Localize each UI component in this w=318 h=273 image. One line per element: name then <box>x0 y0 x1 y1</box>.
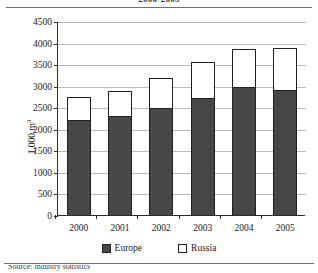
x-axis-tick <box>96 215 97 219</box>
x-axis-tick <box>179 215 180 219</box>
x-axis-tick <box>55 215 56 219</box>
x-axis-label: 2000 <box>67 223 91 233</box>
bar-segment-russia <box>191 62 215 98</box>
legend-item-europe[interactable]: Europe <box>102 243 142 253</box>
bar-segment-europe <box>273 90 297 215</box>
bar-stack <box>273 21 297 215</box>
legend-swatch-icon <box>102 244 111 253</box>
figure-caption: Source: industry statistics <box>8 265 90 271</box>
caption-clip: Source: industry statistics <box>0 265 318 273</box>
chart-legend: EuropeRussia <box>0 243 318 253</box>
plot-area: 050010001500200025003000350040004500 200… <box>57 22 305 216</box>
bar-segment-europe <box>149 108 173 215</box>
bar-stack <box>67 21 91 215</box>
y-axis-tick-label: 0 <box>47 211 52 221</box>
bar-segment-europe <box>191 98 215 215</box>
legend-label: Europe <box>115 243 142 253</box>
bar-segment-europe <box>108 116 132 215</box>
bar-stack <box>232 21 256 215</box>
chart-title: 2000-2005 <box>0 0 318 4</box>
y-axis-tick-label: 4000 <box>33 39 52 49</box>
legend-swatch-icon <box>178 244 187 253</box>
bar-segment-europe <box>232 87 256 215</box>
y-axis-tick-label: 2000 <box>33 125 52 135</box>
x-axis-tick <box>261 215 262 219</box>
y-axis-tick-label: 3000 <box>33 82 52 92</box>
y-axis-tick-label: 1500 <box>33 146 52 156</box>
bar-segment-russia <box>273 48 297 90</box>
bar-segment-europe <box>67 120 91 215</box>
bar-segment-russia <box>67 97 91 120</box>
legend-item-russia[interactable]: Russia <box>178 243 216 253</box>
bar-segment-russia <box>232 49 256 86</box>
chart-figure: 2000-2005 1,000 m3 050010001500200025003… <box>0 0 318 273</box>
x-axis-tick <box>137 215 138 219</box>
y-axis-tick-label: 2500 <box>33 103 52 113</box>
x-axis-label: 2003 <box>191 223 215 233</box>
x-axis-tick <box>220 215 221 219</box>
x-axis-labels: 200020012002200320042005 <box>58 223 306 233</box>
legend-label: Russia <box>191 243 216 253</box>
bar-stack <box>108 21 132 215</box>
chart-title-clip: 2000-2005 <box>0 0 318 7</box>
y-axis-tick-label: 4500 <box>33 17 52 27</box>
y-axis-tick-label: 1000 <box>33 168 52 178</box>
x-axis-label: 2004 <box>232 223 256 233</box>
bar-stack <box>191 21 215 215</box>
bar-group <box>58 21 306 215</box>
bottom-rule <box>4 263 314 264</box>
top-rule <box>6 7 312 8</box>
x-axis-label: 2002 <box>149 223 173 233</box>
bar-segment-russia <box>149 78 173 108</box>
x-axis-label: 2001 <box>108 223 132 233</box>
x-axis-label: 2005 <box>273 223 297 233</box>
y-axis-tick-label: 500 <box>38 189 52 199</box>
bar-segment-russia <box>108 91 132 116</box>
bar-stack <box>149 21 173 215</box>
y-axis-tick-label: 3500 <box>33 60 52 70</box>
